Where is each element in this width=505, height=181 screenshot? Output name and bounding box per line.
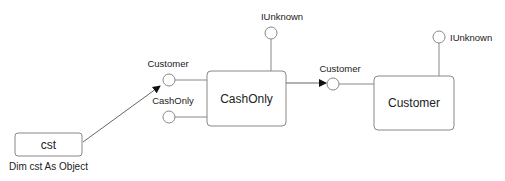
- com-interface-diagram: cst Dim cst As Object CashOnly Customer …: [0, 0, 505, 181]
- interface-circle-icon: [327, 78, 339, 90]
- interface-circle-icon: [163, 74, 175, 86]
- interface-label-customer: Customer: [319, 63, 360, 74]
- cst-box-label: cst: [41, 138, 57, 152]
- cashonly-object: CashOnly Customer CashOnly IUnknown: [147, 11, 303, 126]
- cst-caption: Dim cst As Object: [9, 161, 88, 172]
- variable-cst: cst Dim cst As Object: [9, 133, 88, 172]
- interface-circle-icon: [265, 27, 277, 39]
- cashonly-box-label: CashOnly: [220, 92, 273, 106]
- interface-label-customer: Customer: [147, 58, 188, 69]
- customer-object: Customer Customer IUnknown: [319, 31, 492, 130]
- interface-label-iunknown: IUnknown: [450, 32, 492, 43]
- reference-arrow-cst-to-customer: [83, 86, 160, 142]
- interface-circle-icon: [163, 111, 175, 123]
- interface-label-cashonly: CashOnly: [152, 95, 194, 106]
- interface-circle-icon: [433, 31, 445, 43]
- customer-box-label: Customer: [388, 96, 440, 110]
- interface-label-iunknown: IUnknown: [261, 11, 303, 22]
